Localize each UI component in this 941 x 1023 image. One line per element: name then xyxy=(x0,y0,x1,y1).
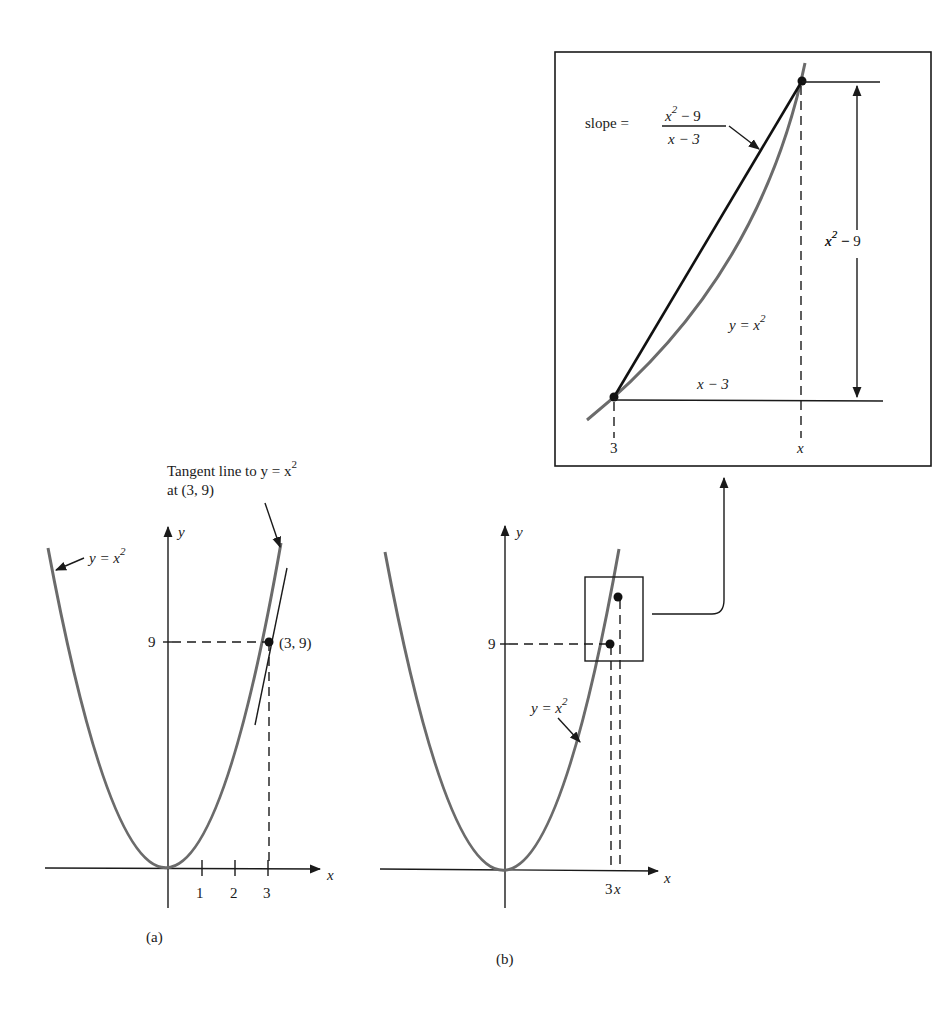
panel-b-x-axis xyxy=(380,869,658,871)
panel-a-y-tick-label: 9 xyxy=(148,634,156,650)
panel-a-parabola xyxy=(48,543,281,868)
panel-b-point-3-9 xyxy=(606,640,615,649)
panel-b-point-x xyxy=(614,593,623,602)
point-label: (3, 9) xyxy=(279,635,312,652)
panel-b-parabola xyxy=(385,549,619,870)
run-line xyxy=(614,400,883,401)
panel-b: x y 9 3 x y = x2 (b) xyxy=(380,478,724,968)
panel-a-curve-label: y = x2 xyxy=(87,545,126,566)
inset-tick-x: x xyxy=(796,440,804,456)
panel-b-curve-label: y = x2 xyxy=(529,695,568,716)
run-label: x − 3 xyxy=(696,376,729,392)
panel-b-y-tick-label: 9 xyxy=(488,636,496,652)
slope-label: slope = xyxy=(585,115,629,131)
panel-b-x-tick-3: 3 xyxy=(605,881,613,897)
slope-numerator: x2 − 9 xyxy=(664,103,701,124)
point-3-9 xyxy=(265,638,274,647)
figure-canvas: 1 2 3 x y 9 (3, 9) y = x2 Tangent line t… xyxy=(0,0,941,1023)
panel-b-curve-label-arrow xyxy=(558,718,580,742)
connector-arrow xyxy=(652,478,724,614)
inset-curve-label: y = x2 xyxy=(727,312,766,333)
panel-a-curve-label-arrow xyxy=(56,558,84,570)
rise-label-overlay: x2 − 9 xyxy=(824,228,861,249)
inset-point-x xyxy=(798,77,807,86)
slope-denominator: x − 3 xyxy=(667,131,700,147)
panel-a-caption: (a) xyxy=(146,929,163,946)
panel-a-y-label: y xyxy=(176,524,185,540)
panel-b-x-label: x xyxy=(663,870,671,886)
inset-tick-3: 3 xyxy=(610,440,618,456)
panel-a-x-label: x xyxy=(326,867,334,883)
zoom-box xyxy=(585,577,643,661)
panel-b-x-tick-x: x xyxy=(613,881,621,897)
inset-magnified: slope = x2 − 9 x − 3 x2 − 9 x2 − 9 y = x… xyxy=(555,52,931,466)
panel-b-y-label: y xyxy=(514,524,523,540)
x-tick-label-2: 2 xyxy=(230,885,238,901)
tangent-label-line1: Tangent line to y = x2 xyxy=(167,458,297,479)
panel-b-caption: (b) xyxy=(496,951,514,968)
tangent-label-arrow xyxy=(265,503,280,547)
tangent-label-line2: at (3, 9) xyxy=(167,482,214,499)
secant-line xyxy=(614,81,802,397)
panel-a-x-axis xyxy=(45,868,320,869)
x-tick-label-1: 1 xyxy=(196,885,204,901)
slope-label-arrow xyxy=(729,126,759,149)
x-tick-label-3: 3 xyxy=(263,885,271,901)
panel-a: 1 2 3 x y 9 (3, 9) y = x2 Tangent line t… xyxy=(45,458,334,946)
